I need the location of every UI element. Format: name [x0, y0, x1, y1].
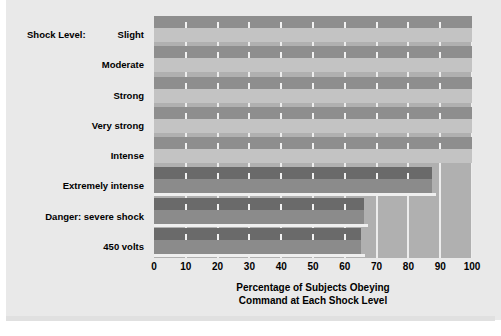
x-tick-90: 90 [435, 261, 446, 272]
bar-top-band [154, 167, 432, 179]
gridline-dash [407, 83, 409, 89]
gridline-dash [185, 173, 187, 179]
gridline-dash [280, 22, 282, 28]
gridline-dash [248, 83, 250, 89]
figure-panel-shadow [6, 316, 495, 321]
bar-face [154, 89, 472, 103]
gridline-dash [185, 113, 187, 119]
y-axis-label-strong: Strong [113, 90, 144, 101]
x-axis-title-line-2: Command at Each Shock Level [154, 294, 472, 307]
gridline-dash [185, 143, 187, 149]
gridline-dash [312, 113, 314, 119]
gridline-dash [312, 52, 314, 58]
x-axis-tick-labels: 0102030405060708090100 [154, 261, 472, 275]
gridline-dash [407, 52, 409, 58]
gridline-dash [344, 52, 346, 58]
gridline-dash [280, 143, 282, 149]
clipped-heading-text [42, 0, 342, 5]
x-tick-10: 10 [180, 261, 191, 272]
y-axis-category-labels: Shock Level: SlightModerateStrongVery st… [0, 16, 148, 258]
x-tick-80: 80 [403, 261, 414, 272]
y-axis-label-slight: Slight [118, 29, 144, 40]
x-tick-100: 100 [464, 261, 481, 272]
x-tick-0: 0 [151, 261, 157, 272]
gridline-dash [185, 52, 187, 58]
bar-face [154, 179, 432, 193]
bar-row [154, 198, 472, 228]
y-axis-label-very-strong: Very strong [92, 120, 144, 131]
x-tick-60: 60 [339, 261, 350, 272]
bar-face [154, 149, 472, 163]
x-tick-20: 20 [212, 261, 223, 272]
gridline-dash [217, 83, 219, 89]
gridline-dash [376, 143, 378, 149]
x-axis-title-line-1: Percentage of Subjects Obeying [154, 281, 472, 294]
gridline-dash [217, 143, 219, 149]
gridline-dash [439, 22, 441, 28]
gridline-dash [344, 113, 346, 119]
gridline-dash [376, 22, 378, 28]
gridline-dash [280, 52, 282, 58]
x-axis-title: Percentage of Subjects Obeying Command a… [154, 281, 472, 307]
gridline-dash [248, 113, 250, 119]
gridline-dash [312, 22, 314, 28]
bar-face [154, 58, 472, 72]
gridline-dash [248, 143, 250, 149]
x-tick-30: 30 [244, 261, 255, 272]
gridline-dash [280, 83, 282, 89]
gridline-dash [312, 83, 314, 89]
plot-area [154, 16, 472, 258]
gridline-dash [344, 173, 346, 179]
bar-face [154, 210, 364, 224]
gridline-dash [344, 143, 346, 149]
gridline-dash [312, 234, 314, 240]
y-axis-label-450-volts: 450 volts [103, 241, 144, 252]
gridline-dash [312, 143, 314, 149]
gridline-dash [407, 173, 409, 179]
gridline-dash [376, 173, 378, 179]
bar-row [154, 16, 472, 46]
gridline-dash [248, 204, 250, 210]
bar-face [154, 28, 472, 42]
gridline-dash [312, 204, 314, 210]
gridline-dash [217, 22, 219, 28]
gridline-dash [439, 52, 441, 58]
bar-row [154, 107, 472, 137]
bar-row [154, 167, 472, 197]
gridline-dash [217, 204, 219, 210]
x-tick-40: 40 [276, 261, 287, 272]
gridline-dash [185, 204, 187, 210]
gridline-dash [217, 52, 219, 58]
bar-highlight-edge [154, 193, 436, 196]
bar-face [154, 119, 472, 133]
gridline-dash [376, 83, 378, 89]
gridline-dash [248, 234, 250, 240]
bar-row [154, 46, 472, 76]
gridline-dash [280, 113, 282, 119]
bar-row [154, 228, 472, 258]
gridline-dash [407, 113, 409, 119]
gridline-dash [439, 113, 441, 119]
y-axis-title: Shock Level: [27, 29, 86, 40]
gridline-dash [280, 173, 282, 179]
bar-row [154, 77, 472, 107]
gridline-dash [248, 22, 250, 28]
y-axis-label-extremely-intense: Extremely intense [63, 180, 144, 191]
gridline-dash [280, 204, 282, 210]
x-tick-50: 50 [307, 261, 318, 272]
x-tick-70: 70 [371, 261, 382, 272]
chart-page: Shock Level: SlightModerateStrongVery st… [0, 0, 501, 336]
gridline-dash [439, 83, 441, 89]
gridline-dash [344, 22, 346, 28]
bar-highlight-edge [154, 224, 368, 227]
gridline-dash [217, 173, 219, 179]
gridline-dash [280, 234, 282, 240]
gridline-dash [217, 234, 219, 240]
bar-row [154, 137, 472, 167]
y-axis-label-moderate: Moderate [102, 59, 144, 70]
gridline-dash [344, 234, 346, 240]
gridline-dash [376, 52, 378, 58]
gridline-dash [248, 52, 250, 58]
y-axis-label-danger-severe-shock: Danger: severe shock [45, 211, 144, 222]
gridline-dash [407, 22, 409, 28]
